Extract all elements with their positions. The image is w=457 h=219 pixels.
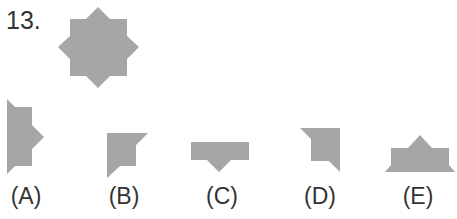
option-e-label[interactable]: (E) bbox=[388, 185, 448, 208]
option-e-figure[interactable] bbox=[385, 135, 455, 172]
option-a-figure[interactable] bbox=[7, 99, 44, 174]
option-c-figure[interactable] bbox=[191, 142, 249, 172]
option-d-figure[interactable] bbox=[300, 128, 340, 172]
option-d-label[interactable]: (D) bbox=[290, 185, 350, 208]
option-b-figure[interactable] bbox=[107, 133, 148, 178]
option-c-label[interactable]: (C) bbox=[192, 185, 252, 208]
eight-point-star-figure bbox=[58, 7, 139, 88]
option-b-label[interactable]: (B) bbox=[94, 185, 154, 208]
option-a-label[interactable]: (A) bbox=[0, 185, 56, 208]
